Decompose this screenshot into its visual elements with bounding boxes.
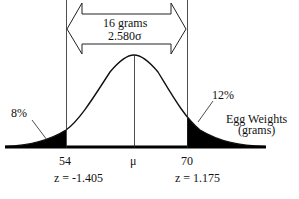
left-tail-percent: 8% bbox=[11, 107, 27, 119]
x-axis-label-line2: (grams) bbox=[238, 124, 275, 136]
normal-curve-diagram bbox=[0, 0, 299, 199]
left-percent-leader bbox=[32, 120, 47, 140]
tick-mean-value: μ bbox=[130, 155, 136, 167]
right-percent-leader bbox=[198, 101, 213, 122]
right-tail-percent: 12% bbox=[212, 89, 234, 101]
tick-upper-value: 70 bbox=[181, 155, 193, 167]
range-width-label: 16 grams bbox=[103, 17, 147, 29]
baseline bbox=[5, 146, 266, 149]
lower-z-score: z = -1.405 bbox=[54, 172, 103, 184]
range-sigma-label: 2.580σ bbox=[108, 30, 141, 42]
upper-z-score: z = 1.175 bbox=[175, 172, 220, 184]
tick-lower-value: 54 bbox=[59, 155, 71, 167]
